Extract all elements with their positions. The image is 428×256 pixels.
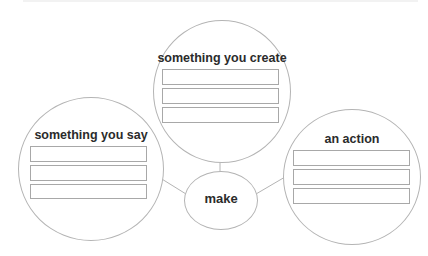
blank-line-create-3[interactable] xyxy=(162,107,279,123)
blank-line-say-3[interactable] xyxy=(30,184,147,199)
blank-line-create-2[interactable] xyxy=(162,88,279,104)
branch-label-say: something you say xyxy=(18,128,164,142)
blank-line-action-1[interactable] xyxy=(293,150,410,166)
connector-right xyxy=(256,177,285,194)
branch-label-create: something you create xyxy=(153,51,291,65)
blank-line-action-2[interactable] xyxy=(293,169,410,185)
center-label: make xyxy=(184,191,258,206)
blank-line-say-1[interactable] xyxy=(30,146,147,162)
blank-line-say-2[interactable] xyxy=(30,165,147,181)
branch-label-action: an action xyxy=(283,132,421,146)
blank-line-action-3[interactable] xyxy=(293,188,410,204)
blank-line-create-1[interactable] xyxy=(162,69,279,85)
